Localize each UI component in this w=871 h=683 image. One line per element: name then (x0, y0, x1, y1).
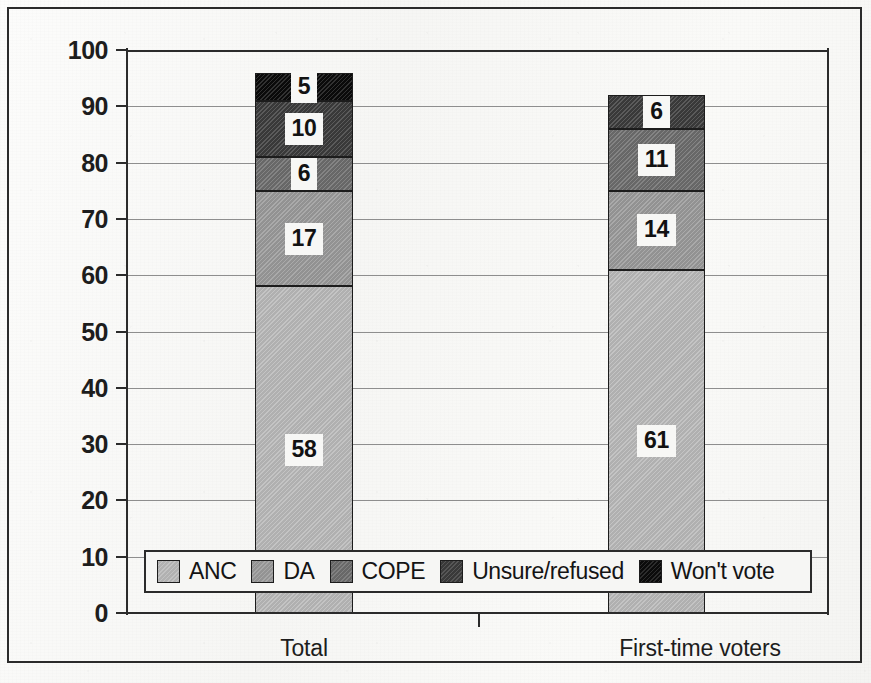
legend-label-unsure-refused: Unsure/refused (472, 560, 624, 583)
gridline-40 (127, 388, 828, 389)
y-tick-label-20: 20 (46, 486, 108, 515)
y-tick-mark-100 (116, 49, 127, 51)
x-category-label-first-time-voters: First-time voters (575, 635, 825, 662)
segment-value-label: 17 (285, 223, 324, 255)
bar-segment-da[interactable]: 14 (608, 191, 705, 270)
legend-swatch-hatch (331, 561, 352, 582)
gridline-50 (127, 332, 828, 333)
legend-swatch-hatch (640, 561, 661, 582)
y-tick-label-0: 0 (46, 599, 108, 628)
bar-segment-won-t-vote[interactable]: 5 (255, 73, 353, 101)
y-tick-mark-70 (116, 218, 127, 220)
segment-value-label: 5 (291, 71, 318, 103)
legend-swatch-da (251, 560, 274, 583)
y-tick-mark-90 (116, 105, 127, 107)
bar-segment-cope[interactable]: 6 (255, 157, 353, 191)
legend-item-anc[interactable]: ANC (157, 560, 236, 583)
chart-legend: ANCDACOPEUnsure/refusedWon't vote (144, 550, 812, 593)
segment-value-label: 61 (637, 425, 676, 457)
y-tick-label-60: 60 (46, 261, 108, 290)
plot-area: 581761056114116 (127, 50, 828, 613)
segment-value-label: 14 (637, 214, 676, 246)
y-tick-mark-20 (116, 499, 127, 501)
segment-value-label: 6 (643, 96, 670, 128)
bar-first-time-voters[interactable]: 6114116 (608, 95, 705, 613)
gridline-100 (127, 50, 828, 52)
gridline-70 (127, 219, 828, 220)
y-tick-mark-10 (116, 556, 127, 558)
legend-label-cope: COPE (362, 560, 426, 583)
gridline-80 (127, 163, 828, 164)
y-tick-label-90: 90 (46, 92, 108, 121)
scanned-page: 581761056114116 1009080706050403020100 T… (0, 0, 871, 683)
legend-item-cope[interactable]: COPE (330, 560, 426, 583)
y-tick-label-70: 70 (46, 205, 108, 234)
legend-swatch-hatch (441, 561, 462, 582)
stacked-bar-chart: 581761056114116 1009080706050403020100 T… (0, 0, 871, 683)
y-tick-mark-50 (116, 331, 127, 333)
y-tick-mark-0 (116, 612, 127, 614)
y-tick-mark-30 (116, 443, 127, 445)
gridline-30 (127, 444, 828, 445)
bar-segment-cope[interactable]: 11 (608, 129, 705, 191)
x-axis-tick-mark (478, 614, 480, 627)
gridline-90 (127, 106, 828, 107)
legend-item-da[interactable]: DA (251, 560, 314, 583)
bar-segment-unsure-refused[interactable]: 6 (608, 95, 705, 129)
legend-item-unsure-refused[interactable]: Unsure/refused (440, 560, 624, 583)
y-tick-label-50: 50 (46, 318, 108, 347)
y-axis-labels: 1009080706050403020100 (38, 0, 108, 683)
y-tick-label-40: 40 (46, 374, 108, 403)
y-tick-label-30: 30 (46, 430, 108, 459)
legend-swatch-unsure-refused (440, 560, 463, 583)
y-tick-label-80: 80 (46, 149, 108, 178)
legend-label-anc: ANC (189, 560, 236, 583)
legend-item-won-t-vote[interactable]: Won't vote (639, 560, 775, 583)
legend-label-da: DA (283, 560, 314, 583)
bar-segment-unsure-refused[interactable]: 10 (255, 101, 353, 157)
segment-value-label: 10 (285, 113, 324, 145)
legend-swatch-hatch (252, 561, 273, 582)
segment-value-label: 58 (285, 434, 324, 466)
y-tick-mark-40 (116, 387, 127, 389)
y-tick-mark-60 (116, 274, 127, 276)
bar-segment-da[interactable]: 17 (255, 191, 353, 287)
segment-value-label: 11 (638, 144, 676, 176)
y-tick-mark-80 (116, 162, 127, 164)
y-tick-label-100: 100 (46, 36, 108, 65)
bar-total[interactable]: 58176105 (255, 73, 353, 613)
legend-swatch-hatch (158, 561, 179, 582)
gridline-60 (127, 275, 828, 276)
segment-value-label: 6 (291, 158, 318, 190)
y-tick-label-10: 10 (46, 543, 108, 572)
legend-swatch-cope (330, 560, 353, 583)
legend-swatch-anc (157, 560, 180, 583)
x-category-label-total: Total (222, 635, 386, 662)
gridline-20 (127, 500, 828, 501)
plot-right-border (827, 48, 829, 615)
legend-label-won-t-vote: Won't vote (671, 560, 775, 583)
legend-swatch-won-t-vote (639, 560, 662, 583)
